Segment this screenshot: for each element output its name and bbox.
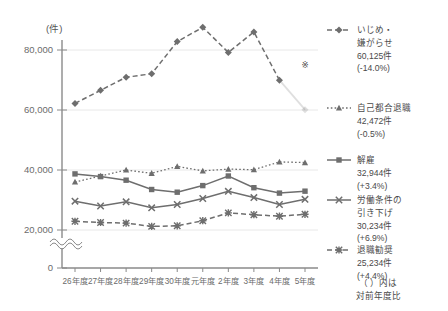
chart-legend: いじめ・嫌がらせ60,125件(-14.0%)自己都合退職42,472件(-0.… (327, 25, 411, 280)
legend-label-3-1: 引き下げ (357, 208, 393, 218)
legend-label-2-2: (+3.4%) (357, 181, 387, 191)
series-line-3 (75, 191, 305, 208)
xtick-label-7: 3年度 (244, 276, 265, 286)
marker-square (123, 178, 128, 183)
marker-asterisk (148, 223, 155, 230)
marker-diamond (97, 87, 104, 94)
marker-triangle (200, 168, 206, 174)
series-line-0-tail (279, 80, 305, 109)
xtick-label-4: 30年度 (165, 276, 190, 286)
marker-diamond (148, 70, 155, 77)
xtick-label-1: 27年度 (88, 276, 113, 286)
series-layer (71, 24, 308, 230)
xtick-label-3: 29年度 (139, 276, 164, 286)
xtick-label-0: 26年度 (62, 276, 87, 286)
legend-label-3-2: 30,234件 (357, 220, 392, 231)
marker-square (336, 157, 341, 162)
marker-square (277, 190, 282, 195)
ytick-label-0: 0 (48, 262, 53, 273)
marker-diamond (123, 74, 130, 81)
marker-square (98, 174, 103, 179)
marker-triangle (225, 166, 231, 172)
marker-diamond (72, 100, 79, 107)
line-chart: (件) 80,000 60,000 40,000 20,000 0 (0, 0, 448, 311)
marker-square (200, 183, 205, 188)
ytick-label-80000: 80,000 (24, 44, 53, 55)
legend-item-2[interactable]: 解雇32,944件(+3.4%) (327, 154, 392, 190)
series-line-2 (75, 174, 305, 193)
legend-label-1-1: 42,472件 (357, 115, 392, 126)
legend-item-3[interactable]: 労働条件の引き下げ30,234件(+6.9%) (327, 194, 402, 243)
marker-asterisk (301, 211, 308, 218)
marker-asterisk (199, 217, 206, 224)
legend-label-0-3: (-14.0%) (357, 63, 390, 73)
xtick-label-8: 4年度 (269, 276, 290, 286)
marker-square (149, 187, 154, 192)
ytick-label-60000: 60,000 (24, 104, 53, 115)
legend-label-2-1: 32,944件 (357, 167, 392, 178)
marker-asterisk (225, 209, 232, 216)
marker-triangle (72, 179, 78, 185)
plot-note-marker: ※ (301, 60, 308, 70)
xtick-label-9: 5年度 (295, 276, 316, 286)
legend-label-2-0: 解雇 (357, 154, 375, 165)
footnote-line1: （ ）内は (359, 277, 397, 288)
legend-label-3-0: 労働条件の (357, 194, 402, 205)
series-4 (71, 209, 308, 230)
marker-asterisk (335, 246, 342, 253)
marker-diamond (199, 24, 206, 31)
series-2 (72, 171, 307, 196)
marker-asterisk (123, 220, 130, 227)
marker-square (72, 171, 77, 176)
marker-asterisk (276, 213, 283, 220)
y-axis-ticks: 80,000 60,000 40,000 20,000 0 (24, 44, 67, 273)
xtick-label-6: 2年度 (218, 276, 239, 286)
legend-label-1-2: (-0.5%) (357, 129, 385, 139)
legend-label-3-3: (+6.9%) (357, 233, 387, 243)
legend-label-0-1: 嫌がらせ (357, 37, 393, 48)
chart-container: (件) 80,000 60,000 40,000 20,000 0 (0, 0, 448, 311)
marker-asterisk (97, 219, 104, 226)
legend-item-1[interactable]: 自己都合退職42,472件(-0.5%) (327, 102, 411, 138)
marker-triangle (336, 105, 342, 111)
legend-label-4-1: 25,234件 (357, 257, 392, 268)
marker-triangle (174, 163, 180, 169)
marker-triangle (276, 159, 282, 165)
series-line-4 (75, 213, 305, 227)
legend-item-4[interactable]: 退職勧奨25,234件(+4.4%) (327, 244, 393, 280)
x-axis-tick-labels: 26年度27年度28年度29年度30年度元年度2年度3年度4年度5年度 (62, 276, 315, 286)
marker-asterisk (250, 211, 257, 218)
series-0 (72, 24, 309, 113)
legend-label-0-2: 60,125件 (357, 50, 392, 61)
y-axis-unit-label: (件) (46, 23, 62, 34)
legend-label-0-0: いじめ・ (357, 25, 393, 35)
axis-break-squiggle (50, 239, 82, 249)
footnote-line2: 対前年度比 (356, 290, 401, 301)
marker-square (226, 173, 231, 178)
legend-label-4-0: 退職勧奨 (357, 244, 393, 255)
marker-asterisk (71, 218, 78, 225)
marker-asterisk (174, 222, 181, 229)
marker-square (251, 185, 256, 190)
marker-diamond (336, 27, 343, 34)
series-line-1 (75, 162, 305, 182)
series-1 (72, 159, 308, 185)
marker-square (302, 188, 307, 193)
ytick-label-40000: 40,000 (24, 164, 53, 175)
xtick-label-5: 元年度 (191, 276, 215, 286)
marker-square (175, 190, 180, 195)
legend-item-0[interactable]: いじめ・嫌がらせ60,125件(-14.0%) (327, 25, 393, 73)
xtick-label-2: 28年度 (114, 276, 139, 286)
ytick-label-20000: 20,000 (24, 224, 53, 235)
legend-label-1-0: 自己都合退職 (357, 102, 411, 113)
